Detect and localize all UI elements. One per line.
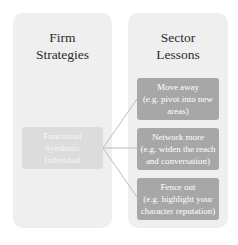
lesson-detail: and conversation) [146,155,210,167]
title-line: Lessons [128,46,228,63]
strategy-type: Individual [44,154,81,166]
lesson-detail: character reputation) [141,205,216,217]
sector-lessons-title: Sector Lessons [128,29,228,63]
strategy-type: Functional [43,130,82,142]
strategy-type: Symbolic [45,142,80,154]
lesson-title: Fence out [160,181,195,193]
lesson-detail: (e.g. pivot into new [143,93,213,105]
lesson-title: Move away [157,81,199,93]
title-line: Strategies [13,46,112,63]
strategy-types-box: Functional Symbolic Individual [22,127,103,169]
lesson-detail: areas) [167,105,188,117]
firm-strategies-title: Firm Strategies [13,29,112,63]
title-line: Sector [128,29,228,46]
lesson-network-more-box: Network more (e.g. widen the reach and c… [137,128,219,170]
lesson-fence-out-box: Fence out (e.g. highlight your character… [137,178,219,220]
lesson-title: Network more [152,131,204,143]
title-line: Firm [13,29,112,46]
lesson-move-away-box: Move away (e.g. pivot into new areas) [137,78,219,120]
lesson-detail: (e.g. widen the reach [140,143,215,155]
firm-strategies-panel: Firm Strategies [13,13,112,228]
lesson-detail: (e.g. highlight your [143,193,213,205]
